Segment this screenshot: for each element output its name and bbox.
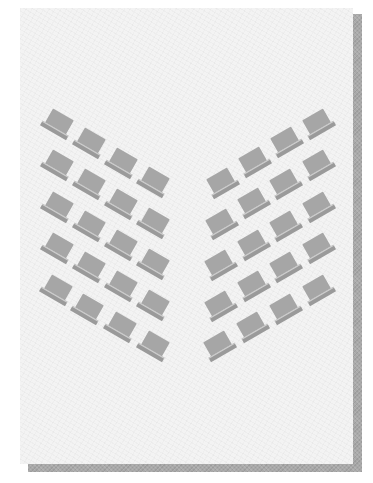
page — [20, 8, 353, 464]
